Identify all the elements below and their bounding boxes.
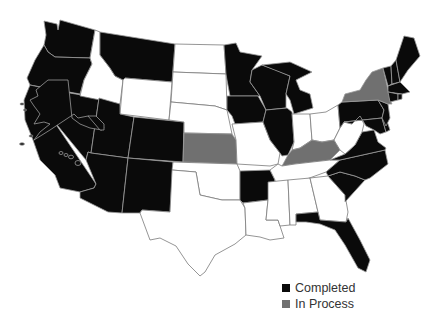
state-CT [388, 92, 398, 102]
state-CO [128, 117, 184, 162]
state-NM [122, 158, 173, 213]
legend: Completed In Process [282, 280, 355, 312]
state-FL [296, 212, 370, 272]
state-WA [44, 20, 95, 58]
state-ME [396, 36, 420, 82]
state-IA [227, 96, 266, 124]
completed-swatch-icon [282, 284, 290, 292]
state-MS [266, 180, 290, 226]
legend-item-completed: Completed [282, 280, 355, 296]
state-WY [120, 78, 172, 120]
in-process-swatch-icon [282, 300, 290, 308]
state-RI [398, 94, 402, 100]
legend-item-in-process: In Process [282, 296, 355, 312]
legend-label-in-process: In Process [295, 297, 354, 311]
state-KS [183, 133, 237, 164]
state-ND [173, 44, 226, 74]
legend-label-completed: Completed [295, 281, 355, 295]
us-states-map [0, 0, 439, 322]
